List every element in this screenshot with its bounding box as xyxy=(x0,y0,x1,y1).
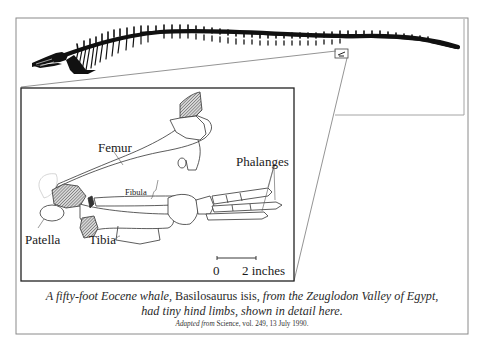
caption-part-c: from the Zeuglodon Valley of Egypt, xyxy=(263,289,439,303)
caption-species: Basilosaurus isis, xyxy=(175,289,260,303)
caption-part-a: A fifty-foot Eocene whale, xyxy=(46,289,172,303)
whale-skeleton xyxy=(32,25,458,74)
label-fibula: Fibula xyxy=(125,188,147,197)
label-femur: Femur xyxy=(98,141,132,154)
credit-prefix: Adapted from xyxy=(176,320,215,328)
scale-bar-end: 2 inches xyxy=(242,264,285,277)
caption-credit: Adapted from Science, vol. 249, 13 July … xyxy=(16,321,468,328)
label-patella: Patella xyxy=(25,233,60,246)
label-tibia: Tibia xyxy=(89,233,116,246)
caption-line-2: had tiny hind limbs, shown in detail her… xyxy=(16,305,468,317)
credit-source: Science, vol. 249, 13 July 1990. xyxy=(216,320,308,328)
label-phalanges: Phalanges xyxy=(236,155,289,168)
scale-bar-start: 0 xyxy=(213,264,220,277)
caption-line-1: A fifty-foot Eocene whale, Basilosaurus … xyxy=(16,290,468,302)
